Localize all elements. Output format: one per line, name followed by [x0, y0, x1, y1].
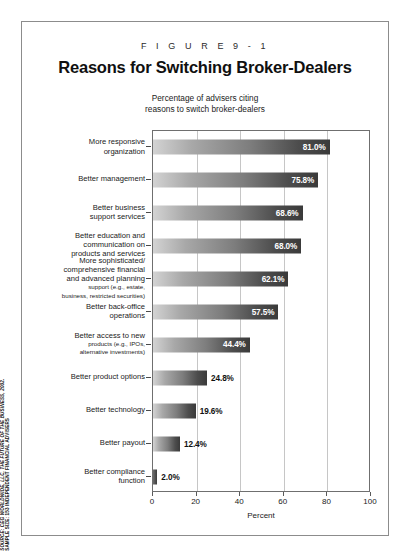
bar[interactable]: 81.0% [153, 140, 330, 155]
bar-value-label: 68.6% [276, 209, 299, 218]
figure-number: F I G U R E 9 - 1 [22, 41, 388, 51]
category-tick [146, 410, 151, 411]
category-tick [146, 311, 151, 312]
figure-page: SOURCE: CEG WORLDWIDE, LLC, THE FUTURE O… [0, 0, 412, 557]
bar-row[interactable]: 24.8% [153, 370, 234, 385]
bar-value-label: 2.0% [161, 472, 179, 481]
bar-row[interactable]: 44.4% [153, 337, 250, 352]
category-axis: More responsiveorganizationBetter manage… [22, 130, 151, 492]
subtitle-line-2: reasons to switch broker-dealers [22, 104, 388, 115]
category-label: Better technology [23, 405, 145, 414]
bar[interactable] [153, 469, 157, 484]
category-tick [146, 344, 151, 345]
bar-chart: More responsiveorganizationBetter manage… [22, 130, 388, 535]
gridline [327, 131, 328, 491]
source-line-1: SOURCE: CEG WORLDWIDE, LLC, THE FUTURE O… [0, 379, 5, 551]
x-tick [326, 492, 327, 496]
x-tick [239, 492, 240, 496]
bar-row[interactable]: 19.6% [153, 403, 222, 418]
bar-row[interactable]: 57.5% [153, 305, 278, 320]
category-label: Better management [23, 175, 145, 184]
category-label: More responsiveorganization [23, 137, 145, 155]
bar-row[interactable]: 81.0% [153, 140, 330, 155]
category-label: Better compliancefunction [23, 466, 145, 484]
bar-row[interactable]: 12.4% [153, 436, 207, 451]
bar-value-label: 62.1% [262, 275, 285, 284]
bar[interactable] [153, 403, 196, 418]
category-tick [146, 443, 151, 444]
x-tick-label: 80 [322, 497, 331, 506]
category-tick [146, 212, 151, 213]
bar-row[interactable]: 68.0% [153, 239, 301, 254]
bar-value-label: 75.8% [292, 176, 315, 185]
bar[interactable] [153, 436, 180, 451]
x-tick-label: 60 [278, 497, 287, 506]
x-tick [152, 492, 153, 496]
bar-value-label: 24.8% [211, 373, 234, 382]
bar-value-label: 44.4% [223, 340, 246, 349]
category-tick [146, 179, 151, 180]
bar-value-label: 57.5% [252, 308, 275, 317]
category-label: Better education andcommunication onprod… [23, 232, 145, 259]
category-label: Better access to newproducts (e.g., IPOs… [23, 331, 145, 357]
source-note: SOURCE: CEG WORLDWIDE, LLC, THE FUTURE O… [0, 0, 22, 557]
bar[interactable]: 68.6% [153, 206, 303, 221]
bar[interactable]: 68.0% [153, 239, 301, 254]
x-tick-label: 0 [150, 497, 154, 506]
bar-row[interactable]: 2.0% [153, 469, 180, 484]
bar[interactable]: 44.4% [153, 337, 250, 352]
x-tick [283, 492, 284, 496]
bar-value-label: 68.0% [275, 242, 298, 251]
bar-row[interactable]: 62.1% [153, 272, 288, 287]
category-label: More sophisticated/comprehensive financi… [23, 256, 145, 300]
bar[interactable] [153, 370, 207, 385]
bar[interactable]: 75.8% [153, 173, 318, 188]
category-label: Better product options [23, 372, 145, 381]
bar-value-label: 12.4% [184, 439, 207, 448]
category-tick [146, 377, 151, 378]
category-tick [146, 245, 151, 246]
x-tick-label: 20 [191, 497, 200, 506]
bar-value-label: 19.6% [200, 406, 223, 415]
category-tick [146, 146, 151, 147]
x-tick-label: 100 [363, 497, 376, 506]
source-line-2: SAMPLE SIZE: 153 INDEPENDENT FINANCIAL A… [6, 379, 11, 551]
category-tick [146, 476, 151, 477]
bar-row[interactable]: 68.6% [153, 206, 303, 221]
bar-row[interactable]: 75.8% [153, 173, 318, 188]
bar[interactable]: 57.5% [153, 305, 278, 320]
bar-value-label: 81.0% [303, 143, 326, 152]
category-tick [146, 278, 151, 279]
x-tick-label: 40 [235, 497, 244, 506]
category-label: Better back-officeoperations [23, 302, 145, 320]
bar[interactable]: 62.1% [153, 272, 288, 287]
category-label: Better businesssupport services [23, 203, 145, 221]
figure-subtitle: Percentage of advisers citing reasons to… [22, 93, 388, 115]
plot-area: 81.0%75.8%68.6%68.0%62.1%57.5%44.4%24.8%… [152, 130, 370, 492]
subtitle-line-1: Percentage of advisers citing [22, 93, 388, 104]
x-tick [196, 492, 197, 496]
category-label: Better payout [23, 438, 145, 447]
page-title: Reasons for Switching Broker-Dealers [22, 58, 388, 77]
x-tick [370, 492, 371, 496]
x-axis-title: Percent [152, 511, 370, 520]
figure-box: F I G U R E 9 - 1 Reasons for Switching … [21, 21, 389, 536]
